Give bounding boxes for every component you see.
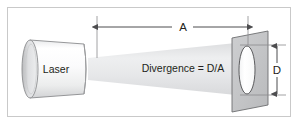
diameter-dimension-label: D — [273, 64, 281, 76]
figure-root: Laser Divergence = D/A A D — [0, 0, 300, 127]
distance-dimension-label: A — [179, 21, 187, 33]
laser-label: Laser — [43, 63, 70, 75]
beam-spot-ellipse — [239, 46, 255, 94]
laser-divergence-diagram: Laser Divergence = D/A A D — [0, 0, 300, 127]
divergence-formula-label: Divergence = D/A — [142, 62, 225, 74]
